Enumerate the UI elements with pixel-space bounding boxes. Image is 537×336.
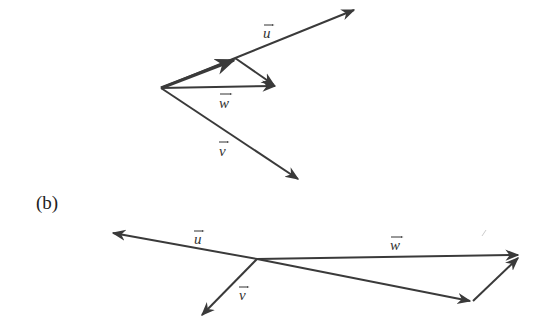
label-u-b: u [194,231,203,247]
label-u-a: u [263,25,273,41]
stray-mark [482,230,486,236]
svg-text:w: w [390,237,400,253]
vector-neg-v-scaled-b [473,258,518,301]
label-v-a: v [219,142,228,159]
vector-v-scaled-a [235,58,274,85]
diagram-b: u w v [113,230,518,315]
svg-text:v: v [219,143,226,159]
vector-u-scaled-a [161,60,234,88]
vector-diagram: u w v (b) u w v [0,0,537,336]
label-w-b: w [390,237,402,253]
vector-v-b [202,259,257,315]
vector-w-b [257,255,518,259]
vector-neg-u-scaled-b [257,259,470,301]
vector-w-a [161,86,275,88]
svg-text:u: u [194,231,202,247]
vector-v-a [161,88,298,179]
label-v-b: v [239,287,248,303]
part-label-b: (b) [36,192,58,214]
svg-text:u: u [263,25,271,41]
diagram-a: u w v [161,10,354,179]
svg-text:w: w [219,95,229,111]
label-w-a: w [219,94,231,111]
vector-u-b [113,233,257,259]
svg-text:v: v [239,287,246,303]
